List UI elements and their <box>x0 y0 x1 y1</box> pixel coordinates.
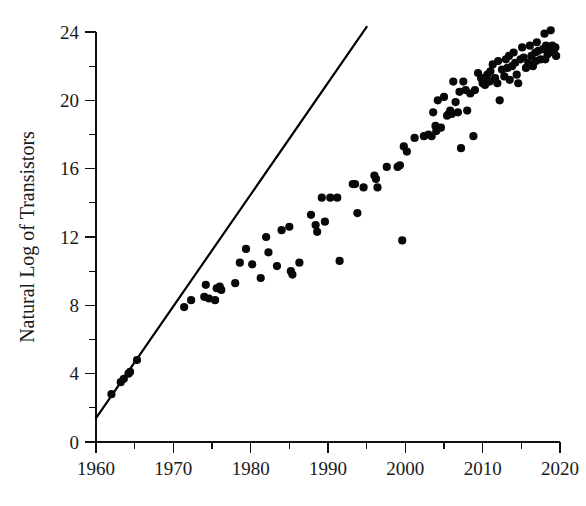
x-tick-label-5: 2010 <box>464 458 502 479</box>
data-point <box>133 356 141 364</box>
plot-canvas: 04812162024 1960197019801990200020102020… <box>0 0 586 506</box>
data-point <box>457 144 465 152</box>
data-point <box>313 228 321 236</box>
data-point <box>493 79 501 87</box>
data-point <box>187 296 195 304</box>
data-point <box>217 286 225 294</box>
data-point <box>494 57 502 65</box>
data-point <box>452 98 460 106</box>
x-tick-label-2: 1980 <box>232 458 270 479</box>
data-point <box>459 77 467 85</box>
y-tick-label-1: 4 <box>70 363 80 384</box>
data-point <box>505 52 513 60</box>
data-point <box>231 279 239 287</box>
data-point <box>359 183 367 191</box>
data-point <box>532 57 540 65</box>
data-point <box>278 226 286 234</box>
data-point <box>242 245 250 253</box>
data-point <box>372 175 380 183</box>
y-axis-title: Natural Log of Transistors <box>16 131 39 343</box>
data-point <box>211 296 219 304</box>
x-tick-label-0: 1960 <box>77 458 115 479</box>
data-point <box>513 71 521 79</box>
data-point <box>551 43 559 51</box>
y-axis-title-group: Natural Log of Transistors <box>16 131 39 343</box>
x-tick-label-3: 1990 <box>309 458 347 479</box>
data-point <box>469 132 477 140</box>
data-point <box>454 108 462 116</box>
x-axis-tick-labels: 1960197019801990200020102020 <box>77 458 579 479</box>
data-point <box>383 163 391 171</box>
y-tick-label-3: 12 <box>60 227 79 248</box>
data-point <box>307 211 315 219</box>
y-tick-label-2: 8 <box>70 295 80 316</box>
data-point <box>318 194 326 202</box>
data-point <box>506 76 514 84</box>
data-point <box>547 26 555 34</box>
data-point <box>533 38 541 46</box>
data-point <box>126 368 134 376</box>
data-point <box>180 303 188 311</box>
data-point <box>273 262 281 270</box>
data-point <box>429 108 437 116</box>
data-point <box>514 79 522 87</box>
data-point <box>411 134 419 142</box>
y-tick-label-5: 20 <box>60 90 79 111</box>
y-tick-label-4: 16 <box>60 158 79 179</box>
data-point <box>236 259 244 267</box>
x-axis-ticks <box>96 442 560 453</box>
x-tick-label-6: 2020 <box>541 458 579 479</box>
data-point <box>264 248 272 256</box>
data-point <box>403 147 411 155</box>
data-point <box>432 127 440 135</box>
data-point <box>373 183 381 191</box>
y-tick-label-6: 24 <box>60 22 80 43</box>
axes-group <box>96 32 560 442</box>
data-point <box>336 257 344 265</box>
data-point <box>479 74 487 82</box>
data-point <box>202 281 210 289</box>
data-point <box>518 43 526 51</box>
data-point <box>496 96 504 104</box>
data-point <box>353 209 361 217</box>
data-point <box>541 55 549 63</box>
data-point <box>351 180 359 188</box>
data-point <box>312 221 320 229</box>
data-point <box>248 260 256 268</box>
data-point <box>396 161 404 169</box>
data-point <box>471 86 479 94</box>
transistor-scatter-chart: 04812162024 1960197019801990200020102020… <box>0 0 586 506</box>
data-point <box>398 236 406 244</box>
y-axis-ticks <box>85 32 96 442</box>
data-point <box>526 42 534 50</box>
data-point <box>552 52 560 60</box>
data-point <box>107 390 115 398</box>
data-point <box>321 218 329 226</box>
data-point <box>257 274 265 282</box>
data-point <box>285 223 293 231</box>
data-point <box>333 194 341 202</box>
data-point <box>262 233 270 241</box>
scatter-points-group <box>107 26 560 398</box>
data-point <box>449 77 457 85</box>
x-tick-label-4: 2000 <box>386 458 424 479</box>
data-point <box>295 259 303 267</box>
y-axis-tick-labels: 04812162024 <box>60 22 80 453</box>
data-point <box>463 106 471 114</box>
data-point <box>288 270 296 278</box>
x-tick-label-1: 1970 <box>154 458 192 479</box>
data-point <box>440 93 448 101</box>
y-tick-label-0: 0 <box>70 432 80 453</box>
